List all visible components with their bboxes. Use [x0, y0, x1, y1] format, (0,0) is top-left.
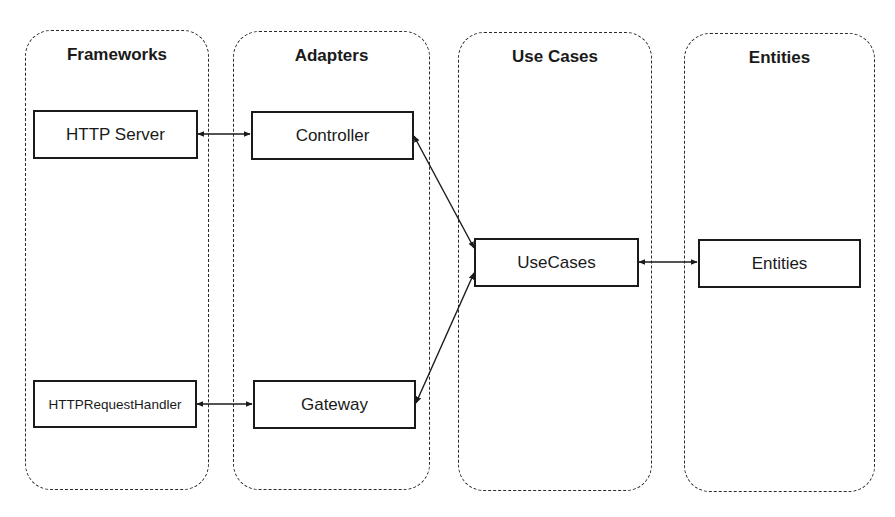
layer-title-entities: Entities	[685, 48, 874, 68]
node-gateway: Gateway	[253, 380, 416, 429]
node-entities: Entities	[698, 239, 861, 288]
node-controller: Controller	[251, 111, 414, 160]
layer-title-use-cases: Use Cases	[459, 47, 651, 67]
layer-title-adapters: Adapters	[234, 46, 429, 66]
node-http-server: HTTP Server	[33, 110, 198, 159]
node-usecases: UseCases	[474, 238, 639, 287]
layer-title-frameworks: Frameworks	[26, 45, 208, 65]
node-http-request-handler: HTTPRequestHandler	[33, 380, 197, 428]
